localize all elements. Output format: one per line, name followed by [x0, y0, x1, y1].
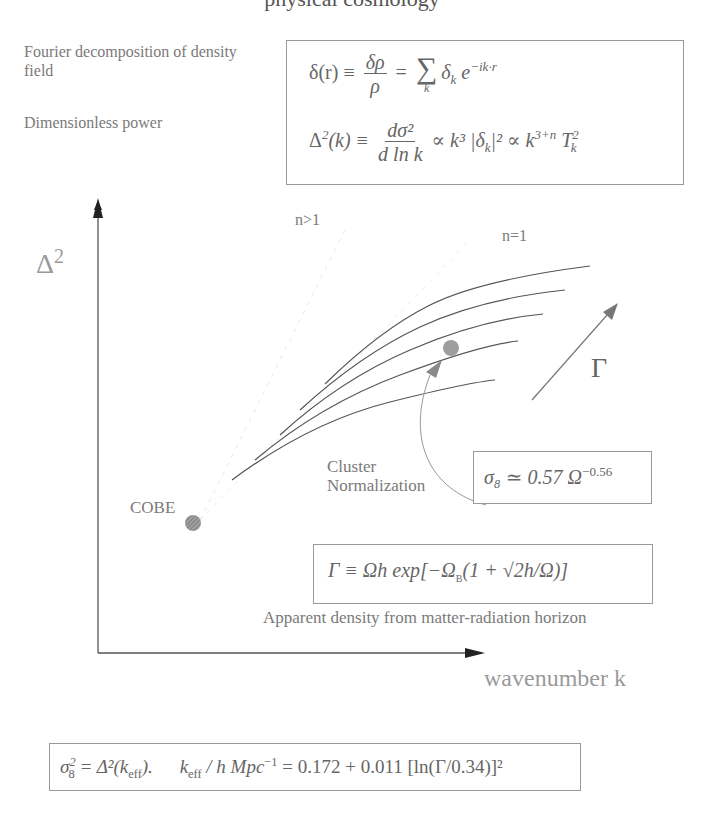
y-axis-arrowhead: [93, 198, 103, 218]
cobe-label: COBE: [130, 498, 175, 517]
bottom-relation-box: σ28 = Δ²(keff). keff / h Mpc−1 = 0.172 +…: [49, 743, 581, 791]
curve-4: [255, 341, 518, 460]
gamma-label: Γ: [591, 352, 607, 384]
y-axis-label: Δ2: [36, 245, 64, 280]
cobe-marker: [185, 515, 201, 531]
power-spectrum-diagram: [0, 0, 704, 840]
n-eq-1-label: n=1: [502, 226, 527, 245]
cluster-label: Cluster Normalization: [327, 457, 425, 495]
curve-3: [280, 314, 543, 435]
x-axis-arrowhead: [465, 648, 485, 658]
apparent-density-label: Apparent density from matter-radiation h…: [263, 608, 587, 627]
gamma-definition-box: Γ ≡ Ωh exp[−ΩB(1 + √2h/Ω)]: [313, 544, 653, 604]
sigma8-box: σ₈ ≃ 0.57 Ω−0.56: [473, 451, 652, 504]
bottom-relation: σ28 = Δ²(keff). keff / h Mpc−1 = 0.172 +…: [60, 755, 503, 782]
sigma8-equation: σ₈ ≃ 0.57 Ω−0.56: [484, 464, 612, 489]
cluster-normalization-marker: [443, 340, 459, 356]
curve-1: [325, 266, 590, 384]
gamma-definition: Γ ≡ Ωh exp[−ΩB(1 + √2h/Ω)]: [328, 559, 568, 584]
n-gt-1-guide: [200, 230, 345, 520]
x-axis-label: wavenumber k: [484, 665, 626, 692]
n-gt-1-label: n>1: [295, 210, 320, 229]
